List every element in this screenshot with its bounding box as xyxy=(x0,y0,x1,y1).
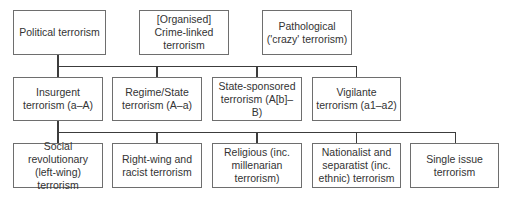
node-vigilante-terrorism: Vigilante terrorism (a1–a2) xyxy=(312,77,401,121)
connector-to-single-issue xyxy=(455,132,457,143)
node-label: Pathological ('crazy' terrorism) xyxy=(266,20,348,46)
node-label: Regime/State terrorism (A–a) xyxy=(116,86,198,112)
node-label: Right-wing and racist terrorism xyxy=(116,153,198,179)
connector-insurgent-down xyxy=(57,121,59,132)
node-social-revolutionary-terrorism: Social revolutionary (left-wing) terrori… xyxy=(13,143,103,188)
node-insurgent-terrorism: Insurgent terrorism (a–A) xyxy=(13,77,103,121)
node-label: Vigilante terrorism (a1–a2) xyxy=(316,86,397,112)
node-label: [Organised] Crime-linked terrorism xyxy=(143,13,225,52)
connector-to-nationalist xyxy=(356,132,358,143)
node-label: State-sponsored terrorism (A[b]–B) xyxy=(216,80,298,119)
node-label: Single issue terrorism xyxy=(414,153,495,179)
node-religious-terrorism: Religious (inc. millenarian terrorism) xyxy=(212,143,302,188)
connector-to-vigilante xyxy=(356,66,358,77)
node-crime-linked-terrorism: [Organised] Crime-linked terrorism xyxy=(139,10,229,55)
node-political-terrorism: Political terrorism xyxy=(13,10,106,55)
connector-to-religious xyxy=(256,132,258,143)
node-nationalist-separatist-terrorism: Nationalist and separatist (inc. ethnic)… xyxy=(312,143,401,188)
connector-level2-bus xyxy=(57,66,357,68)
connector-to-state-sponsored xyxy=(256,66,258,77)
node-label: Religious (inc. millenarian terrorism) xyxy=(216,146,298,185)
node-right-wing-racist-terrorism: Right-wing and racist terrorism xyxy=(112,143,202,188)
connector-to-regime xyxy=(156,66,158,77)
node-label: Insurgent terrorism (a–A) xyxy=(17,86,99,112)
connector-to-right-wing xyxy=(156,132,158,143)
node-single-issue-terrorism: Single issue terrorism xyxy=(410,143,499,188)
node-label: Political terrorism xyxy=(19,26,100,39)
node-label: Nationalist and separatist (inc. ethnic)… xyxy=(316,146,397,185)
node-state-sponsored-terrorism: State-sponsored terrorism (A[b]–B) xyxy=(212,77,302,121)
node-regime-state-terrorism: Regime/State terrorism (A–a) xyxy=(112,77,202,121)
node-label: Social revolutionary (left-wing) terrori… xyxy=(17,140,99,192)
node-pathological-terrorism: Pathological ('crazy' terrorism) xyxy=(262,10,352,55)
connector-to-insurgent xyxy=(57,66,59,77)
connector-political-down xyxy=(57,55,59,66)
